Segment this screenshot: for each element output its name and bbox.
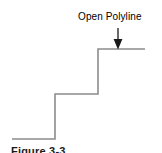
open-polyline <box>12 49 145 139</box>
down-arrow-icon <box>114 28 123 50</box>
annotation-label: Open Polyline <box>78 11 142 23</box>
figure-caption: Figure 3-3 <box>11 145 66 153</box>
figure-container: Open Polyline Figure 3-3 <box>0 0 162 153</box>
